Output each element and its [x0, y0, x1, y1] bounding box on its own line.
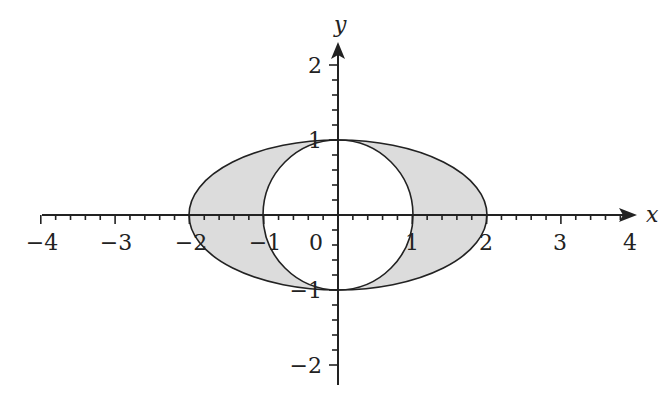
svg-text:4: 4	[623, 230, 637, 255]
plot-canvas: −4 −3 −2 −1 0 1 2 3 4 2 1 −1 −2 x y	[0, 0, 672, 398]
svg-text:−3: −3	[100, 230, 132, 255]
svg-text:2: 2	[479, 230, 493, 255]
y-axis-label: y	[333, 12, 347, 37]
x-axis-label: x	[646, 202, 659, 227]
svg-text:0: 0	[309, 230, 323, 255]
svg-text:−1: −1	[290, 278, 322, 303]
svg-text:1: 1	[308, 128, 322, 153]
svg-text:1: 1	[405, 230, 419, 255]
svg-text:−4: −4	[26, 230, 58, 255]
svg-text:2: 2	[308, 53, 322, 78]
svg-text:−1: −1	[249, 230, 281, 255]
svg-text:3: 3	[553, 230, 567, 255]
svg-text:−2: −2	[175, 230, 207, 255]
svg-text:−2: −2	[290, 353, 322, 378]
